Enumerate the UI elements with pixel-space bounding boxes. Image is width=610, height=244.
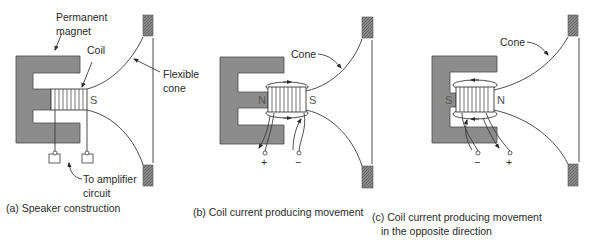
- frame-block-b-bottom: [362, 166, 373, 188]
- cone-a-lower: [87, 110, 143, 165]
- caption-c-line2: in the opposite direction: [381, 225, 492, 237]
- pole-label-b-left: N: [258, 94, 266, 106]
- pole-label-a: S: [90, 94, 97, 106]
- terminal-plus-b: +: [261, 156, 267, 168]
- pole-label-c-left: S: [445, 94, 452, 106]
- caption-a: (a) Speaker construction: [6, 202, 121, 214]
- pole-label-c-right: N: [497, 94, 505, 106]
- label-flexible: Flexible: [163, 68, 199, 80]
- panel-a: Permanent magnet Coil S Flexible cone To…: [6, 11, 199, 214]
- coil-a: [51, 89, 87, 110]
- terminal-minus-c: −: [474, 156, 480, 168]
- label-cone-c: Cone: [500, 36, 525, 48]
- coil-c: [456, 87, 494, 112]
- cone-b-upper: [306, 39, 362, 91]
- label-magnet: magnet: [56, 25, 91, 37]
- label-cone-a: cone: [163, 82, 186, 94]
- label-permanent: Permanent: [56, 11, 107, 23]
- terminal-minus-b: −: [295, 156, 301, 168]
- frame-block-a-top: [143, 15, 153, 36]
- terminal-plus-c: +: [506, 156, 512, 168]
- caption-b: (b) Coil current producing movement: [193, 206, 363, 218]
- cone-b-lower: [306, 110, 362, 166]
- label-cone-b: Cone: [291, 48, 316, 60]
- caption-c-line1: (c) Coil current producing movement: [372, 211, 542, 223]
- pole-label-b-right: S: [309, 94, 316, 106]
- terminal-b-plus: [263, 151, 267, 155]
- terminal-c-plus: [508, 151, 512, 155]
- cone-pointer-a: [134, 59, 160, 72]
- frame-block-a-bottom: [143, 165, 153, 186]
- frame-block-c-bottom: [568, 164, 578, 186]
- speaker-diagram: Permanent magnet Coil S Flexible cone To…: [0, 0, 610, 244]
- terminal-a2: [82, 151, 93, 163]
- panel-b: + − Cone N S (b) Coil current producing …: [193, 17, 373, 218]
- terminal-a1: [49, 151, 60, 163]
- panel-c: − + Cone S N (c) Coil current producing …: [372, 15, 579, 237]
- terminal-b-minus: [297, 151, 301, 155]
- amp-pointer: [69, 163, 82, 179]
- label-coil: Coil: [87, 44, 105, 56]
- frame-block-c-top: [568, 15, 578, 36]
- terminal-c-minus: [476, 151, 480, 155]
- label-circuit: circuit: [83, 187, 111, 199]
- cone-pointer-c: [527, 42, 548, 55]
- lead-b-minus: [299, 113, 305, 151]
- coil-b: [268, 87, 306, 112]
- cone-pointer-b: [318, 54, 341, 68]
- coil-pointer: [82, 62, 92, 87]
- frame-block-b-top: [362, 17, 373, 38]
- label-to-amplifier: To amplifier: [83, 173, 137, 185]
